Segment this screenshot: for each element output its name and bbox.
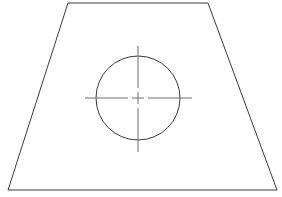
trapezoid-outline	[8, 3, 277, 190]
technical-drawing-canvas	[0, 0, 282, 197]
center-mark-group	[85, 46, 192, 152]
drawing-svg	[0, 0, 282, 197]
